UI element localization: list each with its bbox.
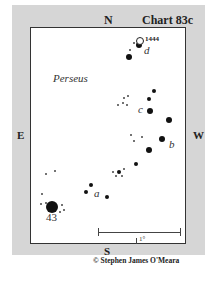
star <box>115 175 117 177</box>
star <box>122 102 124 104</box>
star <box>117 170 121 174</box>
star <box>45 202 47 204</box>
star-label: 43 <box>46 212 57 223</box>
scale-bar <box>98 232 181 233</box>
star <box>127 95 129 97</box>
star <box>112 171 114 173</box>
star <box>123 168 125 170</box>
star <box>54 170 56 172</box>
star <box>133 140 135 142</box>
star <box>134 162 138 166</box>
star <box>117 104 119 106</box>
chart-title: Chart 83c <box>142 14 193 26</box>
star <box>41 193 43 195</box>
scale-label: 1° <box>139 235 145 243</box>
star-label: a <box>94 188 100 199</box>
credit: © Stephen James O'Meara <box>93 257 179 265</box>
star <box>166 117 172 123</box>
north-label: N <box>104 14 113 26</box>
scale-tick-mid <box>136 238 137 244</box>
star <box>63 209 65 211</box>
object-label: 1444 <box>145 36 159 43</box>
star <box>152 89 156 93</box>
star <box>129 49 131 51</box>
star <box>59 211 61 213</box>
star <box>130 134 132 136</box>
star <box>105 195 109 199</box>
star-label: b <box>169 139 175 150</box>
star <box>123 97 125 99</box>
star <box>147 97 151 101</box>
constellation-label: Perseus <box>53 73 88 84</box>
star <box>126 54 132 60</box>
west-label: W <box>193 130 204 141</box>
star <box>61 204 63 206</box>
east-label: E <box>17 130 24 141</box>
cluster-symbol-icon <box>136 37 144 45</box>
star <box>159 136 165 142</box>
star <box>141 136 143 138</box>
star <box>121 175 123 177</box>
star <box>133 42 135 44</box>
star <box>84 190 88 194</box>
star <box>146 147 152 153</box>
star <box>89 183 93 187</box>
star <box>40 203 42 205</box>
star-label: d <box>144 45 150 56</box>
scale-tick-right <box>180 228 181 236</box>
star <box>45 173 47 175</box>
star <box>147 108 153 114</box>
star <box>126 104 128 106</box>
scale-tick-left <box>98 228 99 236</box>
star-label: c <box>138 104 143 115</box>
